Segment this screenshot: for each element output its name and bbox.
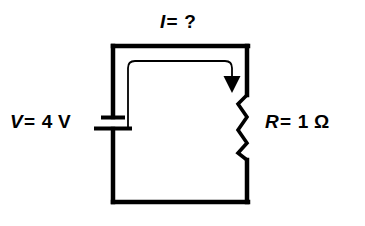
resistor-zigzag (238, 95, 247, 160)
current-value: ? (184, 11, 196, 32)
current-arrow-head (224, 76, 241, 93)
battery-symbol (94, 118, 132, 129)
circuit-diagram: I= ? V= 4 V R= 1 Ω (0, 0, 365, 226)
current-direction-arrow (128, 61, 241, 128)
circuit-wires (113, 46, 248, 202)
resistance-value: 1 Ω (298, 111, 330, 132)
resistance-operator: = (279, 111, 292, 132)
voltage-symbol: V (10, 111, 23, 132)
voltage-label: V= 4 V (10, 112, 71, 131)
voltage-operator: = (23, 111, 36, 132)
resistance-symbol: R (265, 111, 279, 132)
resistance-label: R= 1 Ω (265, 112, 329, 131)
resistor-symbol (238, 95, 247, 160)
voltage-value: 4 V (42, 111, 71, 132)
current-label: I= ? (160, 12, 196, 31)
current-arrow-path (128, 61, 232, 128)
current-operator: = (165, 11, 178, 32)
